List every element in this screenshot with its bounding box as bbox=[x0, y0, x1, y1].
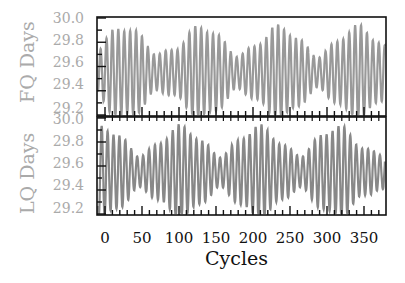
bottom-ytick-0: 30.0 bbox=[36, 112, 84, 126]
xtick-150: 150 bbox=[196, 229, 236, 247]
bottom-ytick-3: 29.4 bbox=[36, 178, 84, 192]
bottom-ytick-4: 29.2 bbox=[36, 201, 84, 215]
top-ytick-3: 29.4 bbox=[36, 77, 84, 91]
xtick-300: 300 bbox=[307, 229, 347, 247]
top-ytick-1: 29.8 bbox=[36, 33, 84, 47]
top-ytick-2: 29.6 bbox=[36, 55, 84, 69]
xtick-50: 50 bbox=[122, 229, 162, 247]
fq-series-line bbox=[98, 25, 385, 114]
xtick-200: 200 bbox=[233, 229, 273, 247]
bottom-ytick-2: 29.6 bbox=[36, 156, 84, 170]
bottom-ytick-1: 29.8 bbox=[36, 134, 84, 148]
xtick-0: 0 bbox=[85, 229, 125, 247]
bottom-y-axis-label: LQ Days bbox=[16, 133, 38, 214]
x-axis-label: Cycles bbox=[205, 247, 268, 269]
xtick-350: 350 bbox=[344, 229, 384, 247]
xtick-100: 100 bbox=[159, 229, 199, 247]
top-ytick-0: 30.0 bbox=[36, 11, 84, 25]
top-y-axis-label: FQ Days bbox=[16, 21, 38, 103]
xtick-250: 250 bbox=[270, 229, 310, 247]
chart-figure: FQ Days LQ Days 30.0 29.8 29.6 29.4 29.2… bbox=[0, 0, 405, 283]
lq-series-line bbox=[98, 124, 385, 213]
